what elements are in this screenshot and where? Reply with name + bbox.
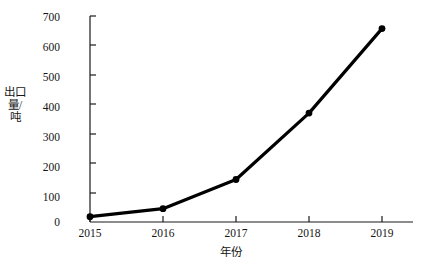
x-axis-ticks	[90, 216, 382, 222]
data-markers	[87, 25, 386, 220]
data-point-2016	[160, 205, 167, 212]
data-point-2018	[306, 110, 313, 117]
line-chart: 出口量/吨 年份 700 600 500 400 300 200 100 0 2…	[0, 0, 427, 266]
plot-area	[0, 0, 427, 266]
data-line	[90, 29, 382, 217]
y-axis-ticks	[90, 16, 96, 193]
data-point-2019	[379, 25, 386, 32]
data-point-2017	[233, 176, 240, 183]
data-point-2015	[87, 213, 94, 220]
